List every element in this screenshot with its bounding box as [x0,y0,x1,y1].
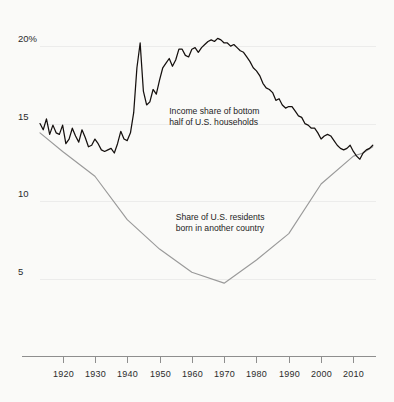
x-tick-label-2010: 2010 [343,369,364,379]
y-tick-label-15: 15 [18,111,29,122]
y-tick-label-5: 5 [18,266,23,277]
y-tick-label-10: 10 [18,188,29,199]
income-share-label-line-1: Income share of bottom [169,106,259,116]
line-chart: 20%15105 Income share of bottomhalf of U… [0,0,394,402]
foreign-born-label-line-2: born in another country [176,223,265,233]
x-tick-label-1940: 1940 [117,369,138,379]
y-tick-label-20: 20% [18,33,38,44]
income-share-label-line-2: half of U.S. households [169,117,258,127]
x-tick-label-1980: 1980 [246,369,267,379]
x-tick-label-1920: 1920 [53,369,74,379]
x-tick-label-2000: 2000 [311,369,332,379]
x-tick-label-1970: 1970 [214,369,235,379]
x-tick-label-1960: 1960 [182,369,203,379]
x-tick-label-1930: 1930 [85,369,106,379]
x-tick-label-1950: 1950 [150,369,171,379]
x-tick-label-1990: 1990 [279,369,300,379]
foreign-born-label-line-1: Share of U.S. residents [176,212,265,222]
chart-container: 20%15105 Income share of bottomhalf of U… [0,0,394,402]
